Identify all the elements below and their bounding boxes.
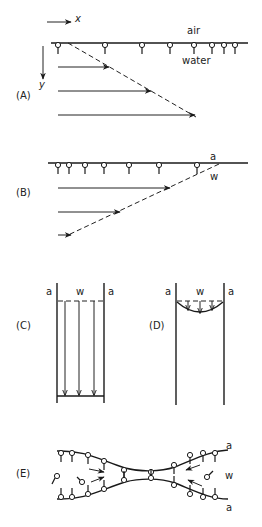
free-surfactant-molecules bbox=[52, 471, 213, 485]
panel-c bbox=[57, 283, 104, 403]
velocity-profile-line bbox=[66, 164, 219, 236]
air-label: air bbox=[187, 26, 200, 36]
panel-label-b: (B) bbox=[16, 187, 31, 198]
water-label: w bbox=[210, 172, 218, 182]
velocity-profile-line bbox=[68, 43, 196, 117]
air-label-right: a bbox=[228, 287, 234, 297]
water-label: water bbox=[182, 56, 211, 66]
panel-label-e: (E) bbox=[16, 468, 30, 479]
panel-label-a: (A) bbox=[16, 90, 31, 101]
water-label: w bbox=[225, 471, 233, 481]
air-label-left: a bbox=[165, 287, 171, 297]
y-axis-label: y bbox=[39, 80, 45, 90]
flow-arrow-icon bbox=[186, 465, 200, 470]
air-label-top: a bbox=[226, 441, 232, 451]
flow-arrow-icon bbox=[89, 469, 104, 472]
panel-label-d: (D) bbox=[149, 320, 165, 331]
panel-a bbox=[43, 22, 248, 117]
water-label: w bbox=[196, 287, 204, 297]
panel-d bbox=[176, 283, 224, 405]
surfactant-molecules bbox=[55, 42, 237, 54]
panel-label-c: (C) bbox=[16, 320, 31, 331]
air-label: a bbox=[210, 152, 216, 162]
air-label-left: a bbox=[46, 287, 52, 297]
air-label-right: a bbox=[108, 287, 114, 297]
surfactant-molecules bbox=[55, 162, 199, 174]
water-label: w bbox=[76, 287, 84, 297]
air-label-bottom: a bbox=[226, 503, 232, 513]
flow-arrow-icon bbox=[91, 477, 104, 482]
x-axis-label: x bbox=[75, 14, 81, 24]
panel-e bbox=[52, 450, 228, 500]
surfactant-molecules-upper bbox=[58, 450, 217, 481]
